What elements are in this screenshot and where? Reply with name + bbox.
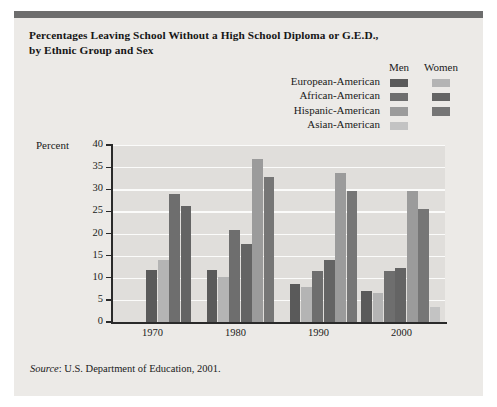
bar: [229, 230, 240, 322]
legend-label: African-American: [299, 89, 380, 101]
bar: [335, 173, 346, 322]
legend-swatch-men: [390, 93, 408, 102]
bar: [373, 293, 384, 322]
y-tick-label: 15: [77, 249, 103, 260]
legend-header-women: Women: [420, 61, 462, 73]
chart-title-line-2: by Ethnic Group and Sex: [29, 43, 459, 58]
bar: [407, 191, 418, 322]
y-tick-label: 5: [77, 293, 103, 304]
y-tick-mark: [106, 211, 111, 212]
bar: [384, 271, 395, 322]
bar: [181, 206, 192, 322]
legend-row: Hispanic-American: [250, 104, 462, 118]
bar: [418, 209, 429, 322]
y-tick-mark: [106, 189, 111, 190]
x-tick-label: 1990: [289, 327, 349, 338]
legend-swatch-women: [432, 79, 450, 88]
legend-label: European-American: [291, 75, 380, 87]
chart-title-line-1: Percentages Leaving School Without a Hig…: [29, 28, 459, 43]
x-tick-label: 2000: [372, 327, 432, 338]
legend-row: Asian-American: [250, 118, 462, 132]
source-note: Source: U.S. Department of Education, 20…: [30, 363, 221, 374]
y-tick-mark: [106, 299, 111, 300]
legend-header-men: Men: [384, 61, 414, 73]
figure-panel: Percentages Leaving School Without a Hig…: [14, 11, 483, 396]
bar: [207, 270, 218, 322]
legend-swatch-men: [390, 107, 408, 116]
bar: [430, 307, 441, 322]
y-tick-mark: [106, 277, 111, 278]
legend-swatch-men: [390, 79, 408, 88]
bar: [301, 287, 312, 322]
legend-header: Men Women: [250, 61, 462, 75]
x-tick-label: 1970: [123, 327, 183, 338]
y-tick-label: 20: [77, 227, 103, 238]
bar: [218, 277, 229, 322]
legend-swatch-women: [432, 93, 450, 102]
title-rule: [14, 11, 483, 18]
legend-swatch-men: [390, 122, 408, 131]
bar: [252, 159, 263, 322]
x-axis-line: [111, 322, 447, 324]
bar: [324, 260, 335, 322]
x-tick-label: 1980: [206, 327, 266, 338]
bar: [264, 177, 275, 322]
bar: [241, 244, 252, 322]
y-tick-label: 10: [77, 271, 103, 282]
bar: [347, 191, 358, 322]
plot-area: [113, 145, 445, 322]
y-tick-mark: [106, 167, 111, 168]
bar: [395, 268, 406, 322]
legend-row: African-American: [250, 89, 462, 103]
y-tick-label: 40: [77, 138, 103, 149]
legend-swatch-women: [432, 107, 450, 116]
y-tick-mark: [106, 233, 111, 234]
bar: [146, 270, 157, 322]
legend-label: Hispanic-American: [294, 104, 380, 116]
y-tick-label: 30: [77, 182, 103, 193]
y-axis-label: Percent: [36, 139, 69, 151]
y-tick-mark: [106, 144, 111, 145]
bar: [158, 260, 169, 322]
bar: [312, 271, 323, 322]
y-tick-mark: [106, 255, 111, 256]
y-tick-mark: [106, 321, 111, 322]
chart-legend: Men Women European-AmericanAfrican-Ameri…: [250, 61, 462, 133]
legend-row: European-American: [250, 75, 462, 89]
chart-title: Percentages Leaving School Without a Hig…: [29, 28, 459, 57]
y-tick-label: 35: [77, 160, 103, 171]
y-tick-label: 0: [77, 315, 103, 326]
bar: [290, 284, 301, 322]
source-text: : U.S. Department of Education, 2001.: [59, 363, 221, 374]
bar: [361, 291, 372, 322]
legend-label: Asian-American: [307, 118, 380, 130]
legend-swatch-women: [432, 122, 450, 131]
bar: [169, 194, 180, 322]
y-tick-label: 25: [77, 204, 103, 215]
y-axis-line: [111, 144, 113, 323]
source-label: Source: [30, 363, 59, 374]
bar-series-container: [113, 145, 445, 322]
